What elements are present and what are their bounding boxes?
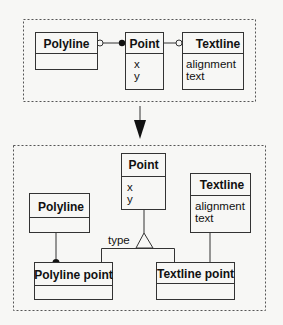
hollow-circle-icon: [176, 40, 182, 46]
attribute: text: [195, 212, 214, 224]
class-title: Textline point: [157, 267, 234, 281]
attribute: x: [134, 58, 140, 70]
attribute: x: [127, 181, 133, 193]
class-point-bottom[interactable]: Point x y: [122, 154, 166, 210]
class-polyline-top[interactable]: Polyline: [36, 33, 98, 70]
diagram-canvas: Polyline Point x y Textline alignment te…: [0, 0, 283, 325]
attribute: y: [127, 193, 133, 205]
arrow-down-icon: [134, 120, 146, 139]
class-title: Polyline: [43, 37, 89, 51]
class-title: Polyline: [38, 200, 84, 214]
class-textline-bottom[interactable]: Textline alignment text: [191, 174, 251, 233]
attribute: alignment: [186, 58, 237, 70]
class-polyline-point[interactable]: Polyline point: [34, 263, 113, 300]
attribute: y: [134, 70, 140, 82]
class-textline-point[interactable]: Textline point: [157, 263, 235, 300]
generalization-branch: [102, 249, 175, 264]
class-title: Textline: [196, 37, 241, 51]
attribute: alignment: [195, 200, 246, 212]
attribute: text: [186, 70, 205, 82]
filled-circle-icon: [53, 259, 60, 262]
class-textline-top[interactable]: Textline alignment text: [183, 33, 244, 90]
class-title: Point: [130, 37, 160, 51]
class-title: Point: [129, 158, 159, 172]
class-title: Polyline point: [34, 268, 113, 282]
discriminator-label: type: [108, 234, 130, 246]
generalization-triangle-icon: [136, 233, 153, 248]
class-point-top[interactable]: Point x y: [126, 33, 164, 90]
filled-circle-icon: [119, 40, 125, 46]
class-title: Textline: [200, 178, 245, 192]
class-polyline-bottom[interactable]: Polyline: [30, 194, 90, 233]
